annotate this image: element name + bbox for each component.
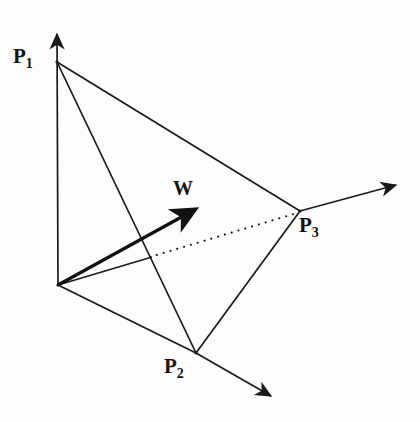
- vertex-label-p2: P2: [164, 356, 184, 381]
- axis-arrow-up: [57, 34, 58, 285]
- vector-label-w-base: W: [173, 177, 193, 199]
- vertex-p1-point: [55, 60, 58, 63]
- vertex-label-p1-subscript: 1: [26, 56, 33, 71]
- vertex-label-p3: P3: [299, 215, 319, 240]
- axis-arrow-down-right: [196, 353, 271, 396]
- edge-origin-to-dotted-start: [58, 257, 152, 285]
- vector-label-w: W: [173, 178, 193, 198]
- edge-p2-p3: [196, 211, 300, 353]
- dotted-hidden-edge-to-p3: [150, 213, 297, 257]
- axis-arrow-right: [300, 185, 396, 211]
- vector-w-arrow: [58, 209, 196, 285]
- vertex-label-p2-subscript: 2: [177, 366, 184, 381]
- diagram-svg: [0, 0, 420, 422]
- edge-p1-p2: [57, 62, 196, 353]
- vertex-label-p1-base: P: [13, 44, 26, 68]
- vertex-p2-point: [194, 351, 197, 354]
- vertex-origin-point: [56, 283, 59, 286]
- vertex-label-p3-subscript: 3: [312, 225, 319, 240]
- vertex-label-p2-base: P: [164, 354, 177, 378]
- vertex-label-p1: P1: [13, 46, 33, 71]
- figure-canvas: P1 P2 P3 W: [0, 0, 420, 422]
- edge-origin-p2: [58, 285, 196, 353]
- vertex-label-p3-base: P: [299, 213, 312, 237]
